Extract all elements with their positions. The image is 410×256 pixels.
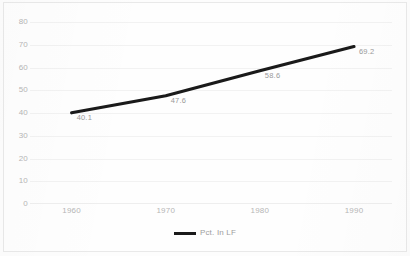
- data-point-label: 69.2: [359, 48, 374, 56]
- plot-area: 40.1 47.6 58.6 69.2: [30, 22, 392, 204]
- chart-container: 80 70 60 50 40 30 20 10 0 40.1 47.6 58.6…: [0, 0, 410, 256]
- x-tick-label: 1990: [345, 206, 364, 216]
- legend-line-swatch: [174, 232, 196, 235]
- y-tick-label: 30: [2, 132, 28, 140]
- x-tick-label: 1970: [156, 206, 175, 216]
- y-tick-label: 70: [2, 41, 28, 49]
- y-tick-label: 80: [2, 18, 28, 26]
- y-tick-label: 20: [2, 155, 28, 163]
- y-tick-label: 10: [2, 177, 28, 185]
- y-tick-label: 50: [2, 86, 28, 94]
- chart-legend: Pct. In LF: [0, 228, 410, 238]
- legend-label: Pct. In LF: [200, 228, 236, 238]
- y-tick-label: 40: [2, 109, 28, 117]
- y-axis: 80 70 60 50 40 30 20 10 0: [0, 22, 28, 204]
- y-tick-label: 0: [2, 200, 28, 208]
- x-tick-label: 1980: [251, 206, 270, 216]
- data-point-label: 40.1: [77, 114, 92, 122]
- data-point-label: 47.6: [171, 97, 186, 105]
- x-axis: 1960 1970 1980 1990: [30, 206, 392, 222]
- x-tick-label: 1960: [62, 206, 81, 216]
- y-tick-label: 60: [2, 64, 28, 72]
- data-point-label: 58.6: [265, 72, 280, 80]
